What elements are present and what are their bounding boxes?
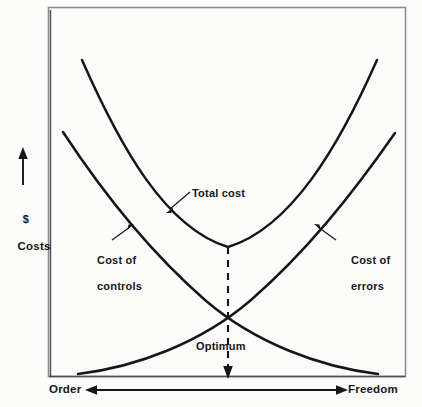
annotation-cost-of-errors-line2: errors bbox=[351, 280, 384, 292]
leader-cost-of-controls bbox=[112, 227, 130, 240]
y-axis-label-text: Costs bbox=[18, 240, 51, 252]
annotation-cost-of-controls: Cost of controls bbox=[84, 241, 142, 306]
annotation-cost-of-errors-line1: Cost of bbox=[351, 254, 390, 266]
annotation-optimum: Optimum bbox=[196, 340, 246, 353]
x-axis-direction-arrowhead-left-icon bbox=[85, 385, 97, 394]
annotation-cost-of-controls-line2: controls bbox=[97, 280, 142, 292]
leader-cost-of-errors bbox=[318, 227, 336, 240]
leader-arrowhead-cost-of-errors-icon bbox=[314, 224, 321, 230]
y-axis-direction-arrowhead-icon bbox=[18, 147, 27, 159]
leader-total-cost bbox=[170, 192, 190, 209]
annotation-cost-of-errors: Cost of errors bbox=[338, 241, 390, 306]
annotation-total-cost: Total cost bbox=[192, 187, 245, 200]
x-axis-direction-arrowhead-right-icon bbox=[336, 385, 348, 394]
x-axis-label-order: Order bbox=[49, 383, 81, 397]
y-axis-currency-symbol: $ bbox=[4, 213, 48, 226]
x-axis-label-freedom: Freedom bbox=[348, 383, 398, 397]
y-axis-label: $ Costs bbox=[4, 186, 48, 267]
annotation-cost-of-controls-line1: Cost of bbox=[97, 254, 136, 266]
figure-canvas: $ Costs Order Freedom Total cost Cost of… bbox=[0, 0, 422, 407]
